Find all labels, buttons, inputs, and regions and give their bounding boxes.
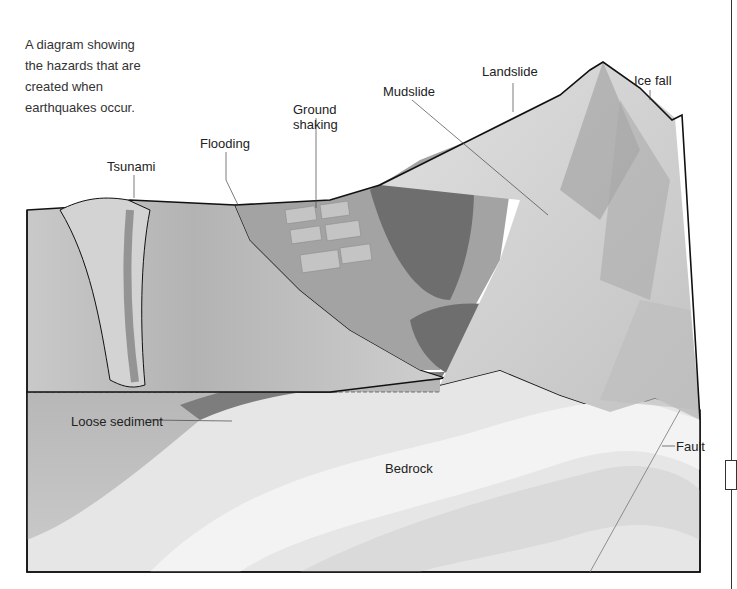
label-mudslide: Mudslide — [383, 84, 435, 99]
label-bedrock: Bedrock — [385, 461, 433, 476]
earthquake-hazards-illustration — [0, 0, 737, 589]
label-ice-fall: Ice fall — [634, 73, 672, 88]
label-ground-shaking: Ground shaking — [293, 102, 338, 132]
label-ground-shaking-line1: Ground — [293, 102, 338, 117]
label-flooding: Flooding — [200, 136, 250, 151]
page-edge-rail — [731, 0, 732, 589]
label-tsunami: Tsunami — [107, 159, 155, 174]
label-loose-sediment: Loose sediment — [71, 414, 163, 429]
page-edge-tab — [725, 460, 737, 490]
label-fault: Fault — [676, 439, 705, 454]
label-ground-shaking-line2: shaking — [293, 117, 338, 132]
label-landslide: Landslide — [482, 64, 538, 79]
